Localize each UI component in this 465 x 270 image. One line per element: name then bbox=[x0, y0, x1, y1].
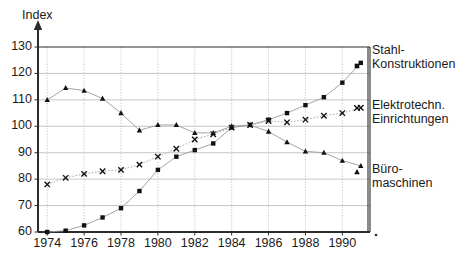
data-point-triangle bbox=[303, 148, 308, 153]
series-square bbox=[47, 63, 361, 232]
data-point-square bbox=[193, 148, 197, 152]
data-point-square bbox=[303, 103, 307, 107]
data-point-cross bbox=[63, 175, 68, 180]
data-point-square bbox=[174, 154, 178, 158]
data-point-cross bbox=[321, 113, 326, 118]
legend-item-elektrotechn-einrichtungen: Elektrotechn. Einrichtungen bbox=[372, 99, 448, 126]
data-point-square bbox=[156, 168, 160, 172]
data-point-triangle bbox=[63, 85, 68, 90]
legend-label-line1: Elektrotechn. bbox=[372, 99, 448, 113]
data-point-triangle bbox=[45, 97, 50, 102]
legend-label-line2: Einrichtungen bbox=[372, 113, 448, 127]
legend-label-line2: Konstruktionen bbox=[372, 58, 455, 72]
data-point-square bbox=[100, 215, 104, 219]
data-point-square bbox=[211, 141, 215, 145]
data-point-square bbox=[119, 206, 123, 210]
series-cross bbox=[47, 108, 361, 185]
legend-label-line2: maschinen bbox=[372, 177, 432, 191]
legend-item-stahl-konstruktionen: Stahl- Konstruktionen bbox=[372, 44, 455, 71]
data-point-square bbox=[285, 111, 289, 115]
data-point-square bbox=[355, 64, 360, 69]
legend-label-line1: Stahl- bbox=[372, 44, 455, 58]
legend-label-line1: Büro- bbox=[372, 163, 432, 177]
data-point-triangle bbox=[284, 139, 289, 144]
data-point-square bbox=[322, 95, 326, 99]
data-point-triangle bbox=[118, 110, 123, 115]
chart-figure: Index 60708090100110120130 1974197619781… bbox=[0, 0, 465, 270]
data-point-square bbox=[137, 189, 141, 193]
data-point-square bbox=[63, 228, 67, 232]
plot-area bbox=[0, 0, 465, 270]
data-point-triangle bbox=[354, 169, 360, 174]
data-point-square bbox=[45, 230, 49, 234]
data-point-square bbox=[340, 80, 344, 84]
data-point-cross bbox=[137, 162, 142, 167]
data-point-cross bbox=[100, 169, 105, 174]
data-point-square bbox=[82, 223, 86, 227]
data-point-cross bbox=[174, 146, 179, 151]
data-point-cross bbox=[155, 154, 160, 159]
legend-item-bueromaschinen: Büro- maschinen bbox=[372, 163, 432, 190]
